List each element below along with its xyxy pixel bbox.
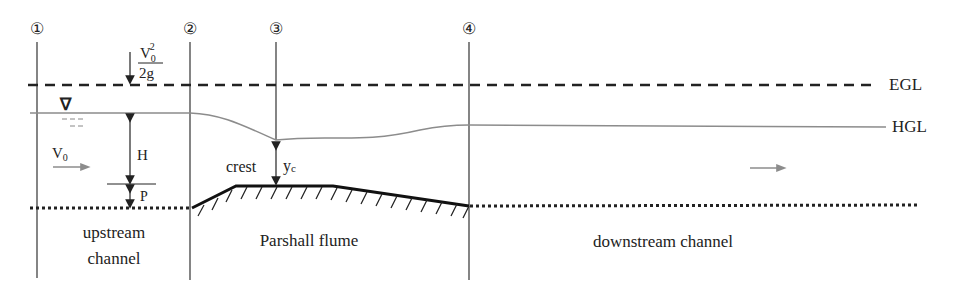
downstream-bed [470,205,920,206]
parshall-flume-diagram: ① ② ③ ④ EGL HGL V02 2g ∇ V0 H P [0,0,970,296]
flume-hatching [198,187,469,218]
section-1: ① [30,20,44,278]
egl-label: EGL [889,75,922,94]
section-3: ③ [269,20,283,140]
crest-label: crest [226,158,257,175]
upstream-channel-label-line2: channel [88,249,141,268]
flume-profile [192,186,469,208]
hgl-label: HGL [892,117,927,136]
weir-height-label: P [140,189,148,204]
downstream-channel-label: downstream channel [593,232,733,251]
parshall-flume-label: Parshall flume [260,231,359,250]
section-4: ④ [462,20,476,280]
section-1-label: ① [30,20,44,37]
velocity-head-numerator: V02 [140,41,156,64]
critical-depth-label: yc [283,157,296,175]
velocity-head-denominator: 2g [139,65,155,81]
section-2: ② [183,20,197,280]
hgl-line [30,113,886,140]
approach-velocity-label: V0 [52,145,68,163]
section-2-label: ② [183,20,197,37]
section-3-label: ③ [269,20,283,37]
free-surface-icon: ∇ [59,95,72,114]
section-4-label: ④ [462,20,476,37]
head-label: H [137,147,148,163]
upstream-channel-label-line1: upstream [83,223,145,242]
